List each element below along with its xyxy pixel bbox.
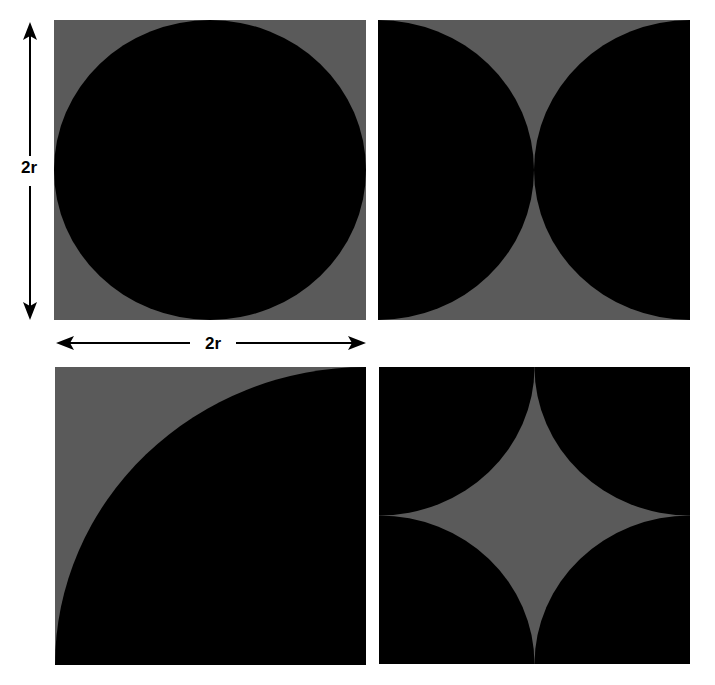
panel-four-quarter-circles [379,367,690,664]
horizontal-dimension-label: 2r [193,334,233,354]
full-circle [54,20,366,320]
panel-quarter-circle [55,367,366,665]
panel-two-half-circles [378,20,690,320]
panel-inscribed-circle [54,20,366,320]
vertical-dimension-label: 2r [12,158,46,178]
